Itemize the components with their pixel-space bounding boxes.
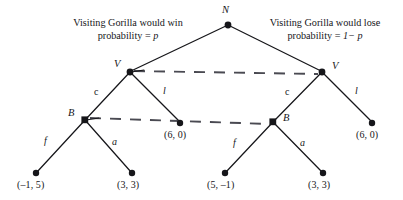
terminal-right-l	[369, 120, 375, 126]
caption-left-line2: probability = p	[58, 29, 198, 42]
node-label-b-right: B	[283, 112, 289, 124]
payoff-right-a: (3, 3)	[308, 179, 330, 191]
action-label-left-c: c	[94, 86, 98, 98]
caption-right-line2: probability = 1− p	[249, 29, 401, 42]
edge-v-left-l	[130, 72, 180, 122]
node-v-left	[127, 69, 134, 76]
caption-left-branch: Visiting Gorilla would win probability =…	[58, 16, 198, 43]
edge-b-left-a	[85, 120, 131, 172]
action-label-right-c: c	[285, 86, 289, 98]
payoff-right-f: (5, –1)	[207, 179, 234, 191]
payoff-left-f: (–1, 5)	[17, 179, 44, 191]
node-b-right	[269, 118, 276, 125]
action-label-right-f: f	[233, 137, 236, 149]
edge-v-left-c	[86, 72, 130, 119]
node-root-n	[225, 22, 232, 29]
caption-left-prob-var: p	[153, 30, 158, 41]
payoff-left-a: (3, 3)	[117, 179, 139, 191]
terminal-left-a	[129, 170, 135, 176]
action-label-left-f: f	[44, 135, 47, 147]
node-v-right	[319, 69, 326, 76]
node-label-v-right: V	[332, 60, 338, 72]
node-label-root-n: N	[222, 4, 229, 16]
terminal-left-f	[33, 170, 39, 176]
payoff-right-l: (6, 0)	[356, 129, 378, 141]
edge-v-right-l	[322, 72, 372, 122]
caption-left-prob-prefix: probability =	[98, 30, 154, 41]
payoff-left-l: (6, 0)	[164, 129, 186, 141]
action-label-right-a: a	[300, 137, 305, 149]
action-label-left-l: l	[163, 85, 166, 97]
edge-b-right-a	[273, 122, 322, 172]
action-label-right-l: l	[355, 85, 358, 97]
caption-right-prob-prefix: probability =	[287, 30, 343, 41]
node-b-left	[81, 116, 88, 123]
v-information-set-dash	[134, 71, 318, 74]
caption-right-line1: Visiting Gorilla would lose	[270, 17, 381, 28]
game-tree-figure: N V V B B Visiting Gorilla would win pro…	[0, 0, 403, 200]
caption-right-branch: Visiting Gorilla would lose probability …	[249, 16, 401, 43]
terminal-right-a	[320, 170, 326, 176]
node-label-b-left: B	[68, 107, 74, 119]
caption-left-line1: Visiting Gorilla would win	[73, 17, 182, 28]
edge-v-right-c	[274, 72, 322, 121]
caption-right-prob-var: 1− p	[343, 30, 363, 41]
terminal-right-f	[222, 170, 228, 176]
action-label-left-a: a	[112, 136, 117, 148]
node-label-v-left: V	[114, 58, 120, 70]
terminal-left-l	[177, 120, 183, 126]
